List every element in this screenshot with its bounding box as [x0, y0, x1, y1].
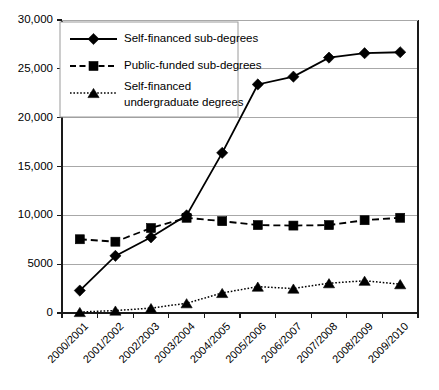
legend-label: Self-financed sub-degrees: [124, 32, 258, 44]
data-point-triangle: [359, 276, 370, 285]
data-point-square: [218, 217, 227, 226]
x-axis-tick-labels: 2000/20012001/20022002/20032003/20042004…: [45, 320, 411, 365]
data-point-diamond: [395, 47, 406, 58]
data-point-square: [111, 237, 120, 246]
series-square: [75, 213, 404, 246]
y-tick-label: 20,000: [18, 111, 53, 123]
y-tick-label: 15,000: [18, 160, 53, 172]
data-point-triangle: [217, 288, 228, 297]
data-point-diamond: [359, 48, 370, 59]
y-tick-label: 25,000: [18, 62, 53, 74]
chart-legend: Self-financed sub-degreesPublic-funded s…: [60, 22, 262, 117]
data-point-square: [325, 221, 334, 230]
data-point-square: [253, 221, 262, 230]
data-point-square: [75, 235, 84, 244]
line-chart: 0500010,00015,00020,00025,00030,000 2000…: [0, 0, 439, 390]
y-axis-tick-labels: 0500010,00015,00020,00025,00030,000: [18, 13, 53, 318]
data-point-square: [396, 213, 405, 222]
series-triangle: [74, 276, 406, 316]
y-tick-label: 5000: [27, 257, 53, 269]
data-point-diamond: [217, 147, 228, 158]
data-point-square: [289, 221, 298, 230]
y-tick-label: 30,000: [18, 13, 53, 25]
series-line: [80, 218, 400, 242]
chart-container: 0500010,00015,00020,00025,00030,000 2000…: [0, 0, 439, 390]
data-point-square: [182, 213, 191, 222]
legend-label-line2: undergraduate degrees: [124, 96, 244, 108]
legend-label: Self-financed: [124, 80, 191, 92]
data-point-square: [147, 224, 156, 233]
legend-label: Public-funded sub-degrees: [124, 59, 262, 71]
data-point-diamond: [323, 52, 334, 63]
y-tick-label: 0: [47, 306, 53, 318]
data-point-diamond: [252, 79, 263, 90]
data-point-square: [360, 216, 369, 225]
data-point-diamond: [288, 71, 299, 82]
data-point-square: [89, 62, 98, 71]
series-line: [80, 281, 400, 312]
y-tick-label: 10,000: [18, 208, 53, 220]
data-point-diamond: [145, 232, 156, 243]
